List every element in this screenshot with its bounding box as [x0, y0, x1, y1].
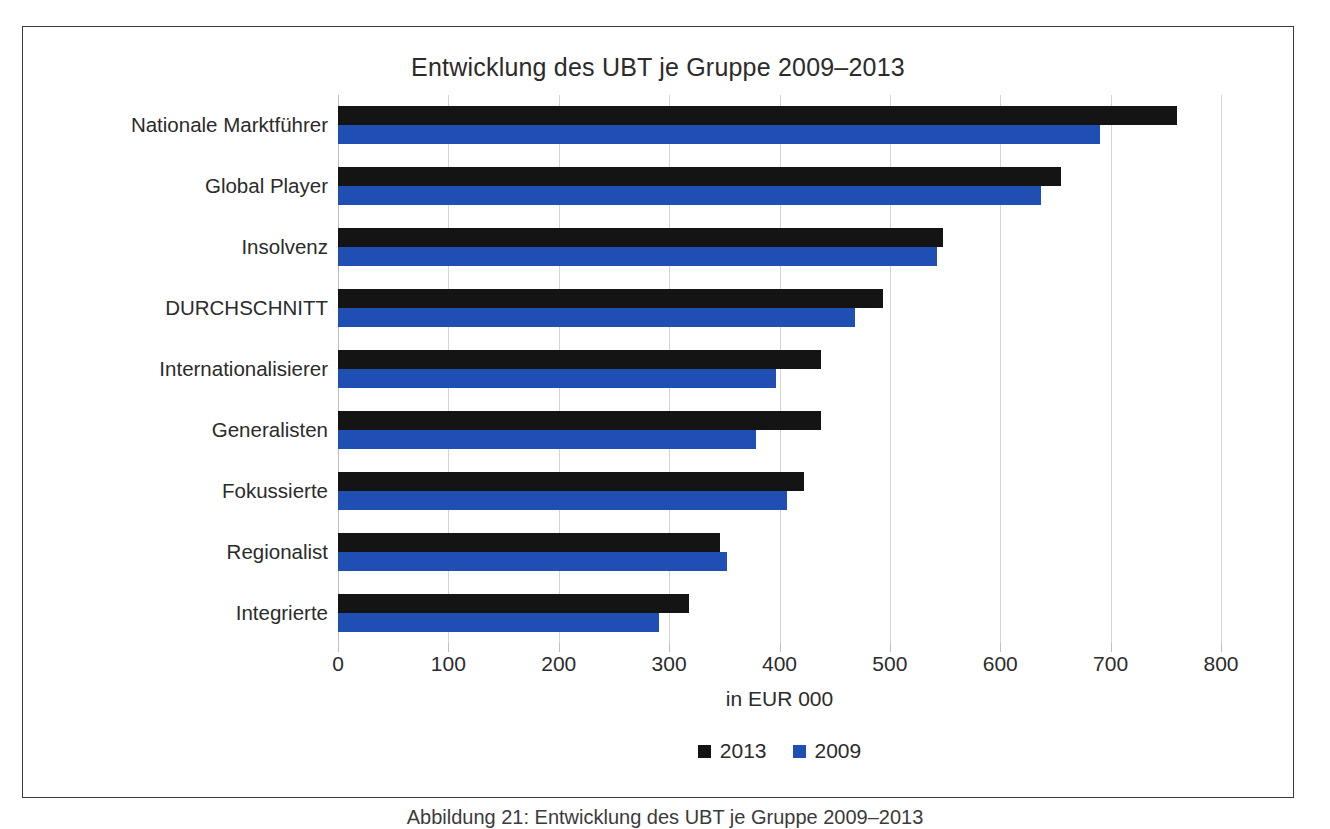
category-label: Integrierte — [236, 603, 328, 624]
bar-group — [338, 411, 1221, 449]
x-tick-label-100: 100 — [431, 652, 466, 676]
category-label: Internationalisierer — [159, 359, 328, 380]
bar-2013[interactable] — [338, 594, 689, 613]
bar-2013[interactable] — [338, 533, 720, 552]
bar-2009[interactable] — [338, 613, 659, 632]
bar-2009[interactable] — [338, 491, 787, 510]
bar-2009[interactable] — [338, 186, 1041, 205]
bar-group — [338, 167, 1221, 205]
bar-2013[interactable] — [338, 350, 821, 369]
legend-label: 2013 — [720, 739, 767, 763]
x-tick-label-500: 500 — [872, 652, 907, 676]
legend-item-2013[interactable]: 2013 — [698, 739, 767, 763]
category-label: Nationale Marktführer — [131, 115, 328, 136]
bar-group — [338, 289, 1221, 327]
bar-2009[interactable] — [338, 308, 855, 327]
category-label: Global Player — [205, 176, 328, 197]
legend-swatch-icon — [698, 745, 711, 758]
x-tick-500 — [890, 643, 891, 652]
x-tick-0 — [338, 643, 339, 652]
x-tick-300 — [669, 643, 670, 652]
bar-2009[interactable] — [338, 247, 937, 266]
x-tick-700 — [1111, 643, 1112, 652]
category-label: Fokussierte — [222, 481, 328, 502]
gridline-800 — [1221, 95, 1222, 643]
bar-2013[interactable] — [338, 289, 883, 308]
category-label: DURCHSCHNITT — [165, 298, 328, 319]
x-tick-800 — [1221, 643, 1222, 652]
bar-2009[interactable] — [338, 430, 756, 449]
x-tick-label-400: 400 — [762, 652, 797, 676]
x-axis-tick-labels: 0100200300400500600700800 — [338, 652, 1221, 684]
chart-title: Entwicklung des UBT je Gruppe 2009–2013 — [23, 53, 1293, 82]
bar-group — [338, 594, 1221, 632]
legend-swatch-icon — [793, 745, 806, 758]
bar-2009[interactable] — [338, 125, 1100, 144]
chart-legend: 20132009 — [338, 739, 1221, 763]
legend-label: 2009 — [815, 739, 862, 763]
bar-2009[interactable] — [338, 369, 776, 388]
x-tick-label-700: 700 — [1093, 652, 1128, 676]
bar-group — [338, 350, 1221, 388]
chart-frame: Entwicklung des UBT je Gruppe 2009–2013 … — [22, 26, 1294, 798]
x-tick-label-0: 0 — [332, 652, 344, 676]
plot-area — [338, 95, 1221, 643]
category-label: Insolvenz — [241, 237, 328, 258]
x-axis-title: in EUR 000 — [338, 687, 1221, 711]
legend-item-2009[interactable]: 2009 — [793, 739, 862, 763]
bar-2013[interactable] — [338, 106, 1177, 125]
bar-2009[interactable] — [338, 552, 727, 571]
bar-2013[interactable] — [338, 411, 821, 430]
category-axis-labels: Nationale MarktführerGlobal PlayerInsolv… — [63, 95, 328, 643]
x-tick-label-300: 300 — [652, 652, 687, 676]
bar-group — [338, 533, 1221, 571]
bar-2013[interactable] — [338, 472, 804, 491]
category-label: Regionalist — [227, 542, 328, 563]
x-tick-label-600: 600 — [983, 652, 1018, 676]
figure-caption: Abbildung 21: Entwicklung des UBT je Gru… — [0, 806, 1330, 829]
x-tick-label-800: 800 — [1203, 652, 1238, 676]
bar-group — [338, 106, 1221, 144]
bar-2013[interactable] — [338, 228, 943, 247]
x-tick-600 — [1000, 643, 1001, 652]
bar-group — [338, 228, 1221, 266]
category-label: Generalisten — [212, 420, 328, 441]
bar-group — [338, 472, 1221, 510]
x-tick-400 — [780, 643, 781, 652]
x-tick-200 — [559, 643, 560, 652]
x-tick-label-200: 200 — [541, 652, 576, 676]
x-tick-100 — [448, 643, 449, 652]
bar-2013[interactable] — [338, 167, 1061, 186]
